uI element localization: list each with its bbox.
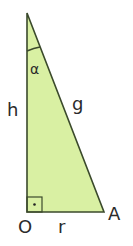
angle-label-alpha: α [30, 61, 39, 77]
point-label-a: A [108, 203, 121, 224]
height-label-h: h [7, 99, 18, 120]
right-angle-dot [33, 203, 36, 206]
right-triangle-diagram: α h g O r A [0, 0, 133, 246]
base-label-r: r [58, 216, 66, 237]
hypotenuse-label-g: g [72, 93, 83, 114]
triangle-shape [27, 13, 104, 212]
origin-label-o: O [18, 216, 32, 237]
